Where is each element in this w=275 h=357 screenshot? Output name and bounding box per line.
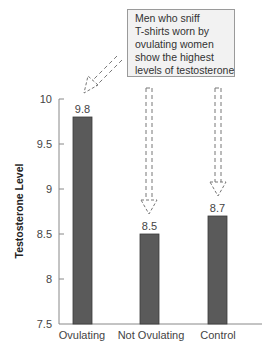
category-label: Not Ovulating	[118, 329, 185, 341]
ytick-label: 10	[40, 93, 52, 105]
annotation-callout: Men who sniff T-shirts worn by ovulating…	[127, 9, 235, 77]
value-label: 8.5	[142, 220, 157, 232]
annotation-arrows	[84, 56, 226, 214]
bar-ovulating	[73, 117, 92, 324]
bar-not-ovulating	[140, 234, 159, 324]
y-ticks	[59, 99, 64, 279]
ytick-label: 9.5	[37, 138, 52, 150]
ytick-label: 8	[46, 273, 52, 285]
arrow-to-not-ovulating	[141, 88, 157, 214]
category-label: Ovulating	[59, 329, 105, 341]
ytick-label: 8.5	[37, 228, 52, 240]
ytick-label: 7.5	[37, 318, 52, 330]
callout-line: T-shirts worn by	[135, 25, 234, 38]
bar-control	[208, 216, 227, 324]
value-label: 8.7	[210, 202, 225, 214]
value-label: 9.8	[75, 103, 90, 115]
arrow-to-ovulating	[84, 56, 122, 93]
callout-line: ovulating women	[135, 38, 234, 51]
y-axis-label: Testosterone Level	[13, 163, 25, 258]
callout-line: show the highest	[135, 51, 234, 64]
ytick-label: 9	[46, 183, 52, 195]
category-label: Control	[200, 329, 235, 341]
callout-line: levels of testosterone	[135, 64, 234, 77]
arrow-to-control	[210, 88, 226, 196]
y-tick-labels: 10 9.5 9 8.5 8 7.5	[37, 93, 52, 330]
callout-line: Men who sniff	[135, 12, 234, 25]
